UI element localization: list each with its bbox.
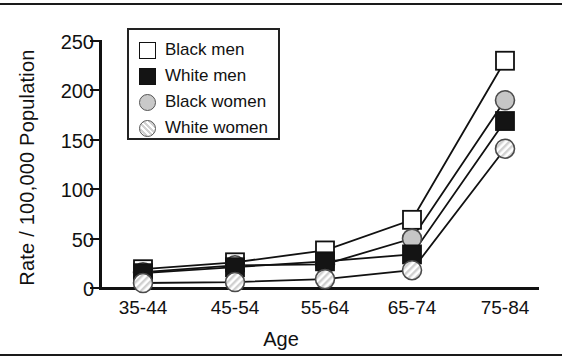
- data-point-marker: [496, 52, 514, 70]
- legend-label: Black women: [165, 92, 266, 112]
- data-point-marker: [403, 211, 421, 229]
- data-point-marker: [316, 252, 334, 270]
- bottom-divider-rule: [0, 354, 562, 356]
- white-square-marker-icon: [139, 42, 156, 59]
- data-point-marker: [496, 139, 515, 158]
- legend-item-white-men: White men: [139, 63, 278, 89]
- data-point-marker: [134, 274, 153, 293]
- plot-area: [0, 6, 562, 352]
- legend-item-black-women: Black women: [139, 89, 278, 115]
- grey-circle-marker-icon: [139, 94, 156, 111]
- data-point-marker: [496, 91, 515, 110]
- black-square-marker-icon: [139, 68, 156, 85]
- hatched-circle-marker-icon: [139, 120, 156, 137]
- data-point-marker: [226, 273, 245, 292]
- top-divider-rule: [0, 3, 562, 5]
- data-point-marker: [316, 270, 335, 289]
- legend-label: White women: [165, 118, 268, 138]
- data-point-marker: [496, 112, 514, 130]
- data-point-marker: [403, 261, 422, 280]
- legend-item-black-men: Black men: [139, 37, 278, 63]
- chart-legend: Black men White men Black women White wo…: [127, 28, 280, 140]
- chart-figure: Rate / 100,000 Population Age 250 200 15…: [0, 6, 562, 352]
- legend-label: White men: [165, 66, 246, 86]
- legend-label: Black men: [165, 40, 244, 60]
- legend-item-white-women: White women: [139, 115, 278, 141]
